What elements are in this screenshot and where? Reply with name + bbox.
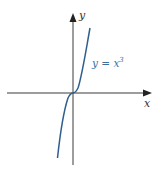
- cubic-function-graph: y x y = x3: [0, 0, 160, 172]
- y-axis-arrow-icon: [70, 13, 77, 22]
- x-axis-label: x: [144, 97, 151, 110]
- x-axis-arrow-icon: [143, 90, 152, 97]
- curve-label: y = x3: [91, 56, 124, 69]
- y-axis-label: y: [78, 9, 86, 22]
- curve-label-main: y = x: [91, 57, 119, 69]
- curve-label-exponent: 3: [119, 56, 124, 64]
